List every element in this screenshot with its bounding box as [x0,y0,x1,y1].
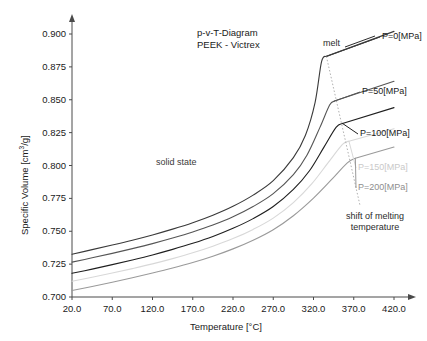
leader-P=200[MPa] [355,158,356,188]
pvt-diagram-chart [0,0,427,341]
chart-background [0,0,427,341]
